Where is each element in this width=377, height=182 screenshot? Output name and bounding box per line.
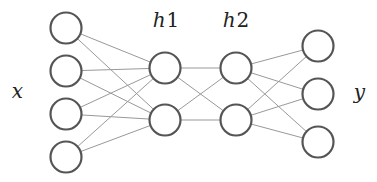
hidden-layer-2-label: h2 — [223, 10, 250, 30]
input-layer-label: x — [12, 81, 24, 101]
node-output-1 — [303, 31, 334, 62]
node-h2-2 — [221, 105, 252, 136]
hidden-layer-2-label-text: h — [223, 8, 236, 32]
node-h2-1 — [221, 53, 252, 84]
node-input-3 — [51, 99, 82, 130]
network-graph — [0, 0, 377, 182]
hidden-layer-2-label-number: 2 — [237, 8, 250, 32]
node-input-2 — [51, 56, 82, 87]
input-layer-label-text: x — [12, 79, 23, 103]
neural-network-diagram: x h1 h2 y — [0, 0, 377, 182]
node-h1-1 — [150, 53, 181, 84]
node-output-2 — [303, 79, 334, 110]
node-h1-2 — [150, 105, 181, 136]
hidden-layer-1-label-text: h — [153, 8, 166, 32]
hidden-layer-1-label-number: 1 — [167, 8, 180, 32]
output-layer-label: y — [354, 82, 366, 102]
node-input-1 — [51, 13, 82, 44]
hidden-layer-1-label: h1 — [153, 10, 180, 30]
node-input-4 — [51, 142, 82, 173]
output-layer-label-text: y — [354, 80, 365, 104]
node-output-3 — [303, 127, 334, 158]
